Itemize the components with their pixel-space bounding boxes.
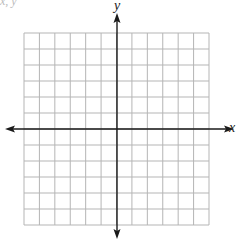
- y-axis-label: y: [114, 0, 120, 13]
- y-axis: [114, 13, 121, 239]
- x-axis-label: x: [229, 121, 235, 135]
- coordinate-plane: [0, 0, 247, 241]
